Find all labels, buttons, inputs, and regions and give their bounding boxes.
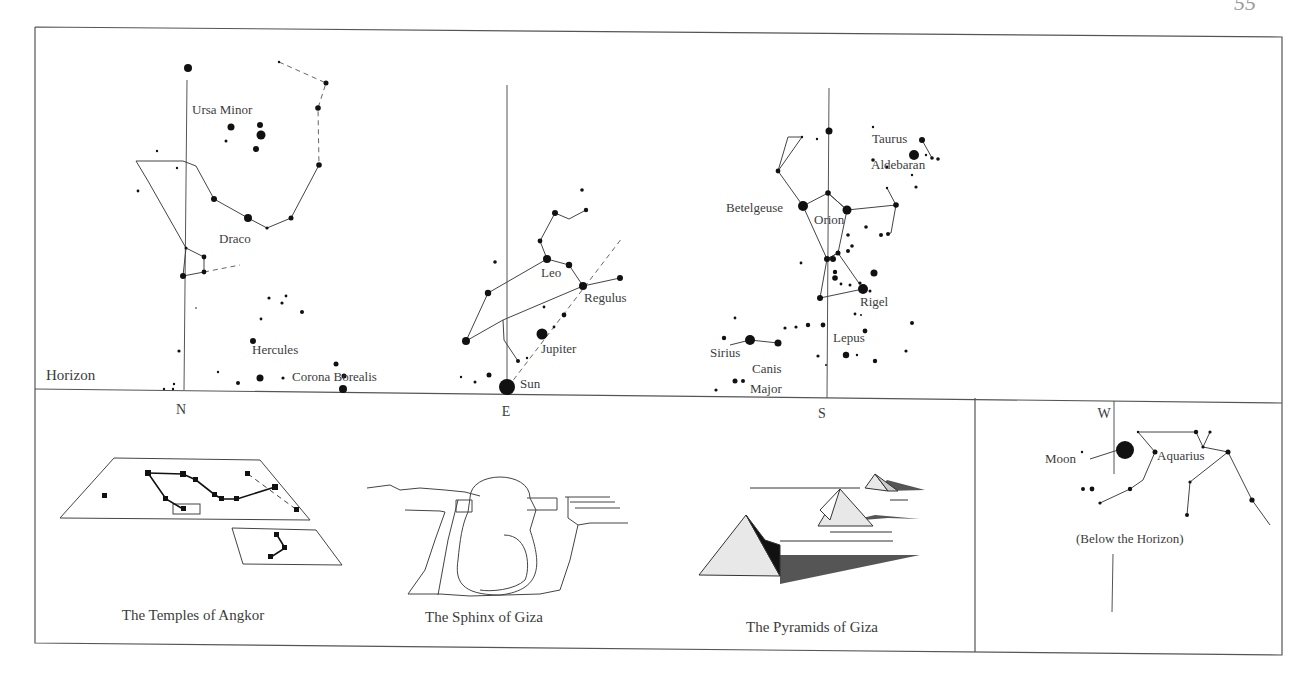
star bbox=[1194, 430, 1198, 434]
meridian-line bbox=[184, 80, 187, 390]
sky-label: Sirius bbox=[710, 345, 740, 360]
star bbox=[872, 126, 874, 128]
star bbox=[794, 325, 797, 328]
star bbox=[825, 190, 831, 196]
sky-label: Betelgeuse bbox=[726, 200, 783, 215]
star bbox=[185, 247, 188, 250]
star bbox=[856, 354, 858, 356]
constellation-line bbox=[1203, 432, 1210, 447]
dashed-guide-lines bbox=[204, 62, 622, 387]
sky-label: Hercules bbox=[252, 342, 298, 357]
star bbox=[830, 256, 836, 262]
star bbox=[543, 255, 551, 263]
sky-label: Leo bbox=[541, 265, 561, 280]
star bbox=[257, 375, 264, 382]
sky-label: Orion bbox=[814, 212, 845, 227]
star bbox=[584, 208, 588, 212]
star bbox=[832, 275, 838, 281]
star bbox=[936, 157, 940, 161]
star bbox=[487, 373, 492, 378]
sky-label: Corona Borealis bbox=[292, 369, 377, 384]
panel-caption: The Pyramids of Giza bbox=[746, 619, 878, 635]
dashed-line bbox=[279, 62, 326, 165]
star bbox=[285, 295, 288, 298]
star bbox=[925, 154, 927, 156]
star bbox=[858, 284, 868, 294]
star bbox=[260, 318, 263, 321]
star bbox=[843, 352, 849, 358]
star bbox=[265, 226, 268, 229]
star bbox=[156, 150, 158, 152]
star bbox=[1081, 487, 1085, 491]
star bbox=[833, 270, 837, 274]
star bbox=[217, 371, 219, 373]
star bbox=[1226, 450, 1231, 455]
star bbox=[850, 244, 854, 248]
sky-label: Moon bbox=[1045, 451, 1077, 466]
star bbox=[893, 202, 899, 208]
star bbox=[1188, 480, 1191, 483]
star bbox=[871, 270, 878, 277]
star bbox=[499, 379, 515, 395]
sky-label: Jupiter bbox=[541, 341, 577, 356]
panel-caption: The Temples of Angkor bbox=[122, 607, 264, 623]
star bbox=[281, 376, 284, 379]
sky-label: Ursa Minor bbox=[192, 102, 253, 117]
star bbox=[1208, 430, 1211, 433]
star bbox=[228, 124, 235, 131]
star bbox=[173, 383, 175, 385]
star bbox=[798, 201, 808, 211]
star bbox=[734, 317, 737, 320]
sky-label: Aquarius bbox=[1157, 448, 1205, 463]
panel-captions: The Temples of AngkorThe Sphinx of GizaT… bbox=[122, 607, 879, 635]
direction-n: N bbox=[176, 402, 186, 417]
meridian-line bbox=[1112, 554, 1113, 612]
star bbox=[553, 326, 556, 329]
star bbox=[289, 216, 294, 221]
star bbox=[864, 225, 868, 229]
star bbox=[824, 256, 830, 262]
star bbox=[562, 313, 567, 318]
star bbox=[1098, 501, 1101, 504]
star bbox=[485, 290, 491, 296]
sky-label: Aldebaran bbox=[871, 157, 926, 172]
star bbox=[930, 156, 934, 160]
star bbox=[462, 337, 470, 345]
star bbox=[315, 105, 321, 111]
star bbox=[854, 313, 857, 316]
star bbox=[339, 385, 347, 393]
direction-s: S bbox=[818, 406, 826, 421]
star bbox=[460, 376, 462, 378]
sky-label: Lepus bbox=[833, 330, 865, 345]
sphinx-illustration bbox=[367, 477, 628, 596]
star bbox=[886, 187, 888, 189]
star bbox=[538, 239, 543, 244]
star bbox=[137, 190, 140, 193]
star bbox=[886, 232, 890, 236]
sky-label: Major bbox=[750, 381, 782, 396]
constellation-line bbox=[503, 320, 518, 361]
star bbox=[745, 335, 755, 345]
star bbox=[202, 255, 207, 260]
star bbox=[257, 122, 263, 128]
star bbox=[474, 381, 477, 384]
star bbox=[300, 310, 304, 314]
star bbox=[280, 301, 283, 304]
constellation-line bbox=[136, 161, 204, 276]
star bbox=[552, 210, 558, 216]
star bbox=[1090, 487, 1095, 492]
constellation-lines bbox=[136, 137, 1270, 525]
angkor-temples-illustration bbox=[60, 458, 342, 565]
star bbox=[172, 388, 174, 390]
star bbox=[816, 138, 818, 140]
sky-map-figure: Ursa MinorDracoHerculesCorona BorealisLe… bbox=[0, 0, 1316, 676]
sky-label: Rigel bbox=[860, 294, 889, 309]
star bbox=[919, 137, 925, 143]
star bbox=[1249, 497, 1254, 502]
star bbox=[806, 323, 810, 327]
star bbox=[783, 326, 786, 329]
star bbox=[858, 281, 861, 284]
star bbox=[1116, 441, 1134, 459]
star bbox=[579, 282, 587, 290]
horizon-label: Horizon bbox=[46, 367, 96, 383]
